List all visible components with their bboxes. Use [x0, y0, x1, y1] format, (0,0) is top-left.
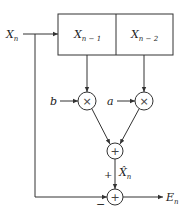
coefficient-b-label: b [50, 95, 57, 108]
adder: + [107, 143, 123, 159]
subtractor: + [107, 189, 123, 205]
plus-icon: + [110, 191, 119, 204]
input-feed-path [35, 34, 107, 197]
minus-sign-label: − [96, 198, 105, 211]
output-label: En [165, 191, 179, 206]
plus-icon: + [110, 145, 119, 158]
coefficient-a-label: a [107, 95, 114, 108]
multiplier-b: × [78, 92, 96, 110]
multiply-icon: × [139, 95, 148, 108]
arrow-mult-b-to-adder [92, 109, 110, 144]
predictor-block-diagram: Xn Xn − 1 Xn − 2 b × a × + + X̂n − + [0, 0, 188, 215]
multiply-icon: × [82, 95, 91, 108]
input-label: Xn [5, 28, 19, 43]
delay-register: Xn − 1 Xn − 2 [58, 14, 173, 55]
multiplier-a: × [135, 92, 153, 110]
arrow-mult-a-to-adder [120, 109, 139, 144]
prediction-label: X̂n [118, 166, 132, 181]
plus-sign-label: + [104, 169, 112, 180]
